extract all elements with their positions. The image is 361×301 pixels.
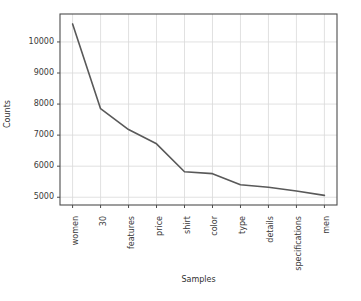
y-tick-label: 6000 bbox=[34, 162, 54, 170]
tick-marks bbox=[57, 42, 324, 208]
x-tick-label: shirt bbox=[184, 216, 192, 301]
x-tick-label: price bbox=[156, 216, 164, 301]
y-tick-label: 5000 bbox=[34, 193, 54, 201]
x-tick-label: color bbox=[211, 216, 219, 301]
y-tick-label: 9000 bbox=[34, 69, 54, 77]
x-tick-label: women bbox=[72, 216, 80, 292]
plot-canvas bbox=[0, 0, 361, 301]
y-tick-label: 10000 bbox=[29, 38, 54, 46]
x-tick-label: details bbox=[267, 216, 275, 301]
x-tick-label: features bbox=[128, 216, 136, 301]
x-tick-label: 30 bbox=[100, 216, 108, 301]
x-axis-title: Samples bbox=[169, 276, 229, 284]
y-tick-label: 7000 bbox=[34, 131, 54, 139]
y-tick-label: 8000 bbox=[34, 100, 54, 108]
chart-figure: 5000600070008000900010000 women30feature… bbox=[0, 0, 361, 301]
x-tick-label: type bbox=[239, 216, 247, 301]
data-line bbox=[73, 24, 325, 195]
x-tick-label: specifications bbox=[295, 216, 303, 301]
y-axis-title: Counts bbox=[4, 84, 12, 144]
x-tick-label: men bbox=[323, 216, 331, 301]
